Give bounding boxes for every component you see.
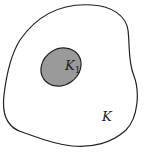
set-diagram: K1 K xyxy=(0,0,146,155)
outer-region-label: K xyxy=(101,109,113,124)
